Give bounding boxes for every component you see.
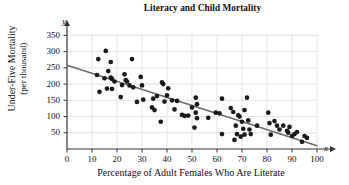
data-points — [95, 49, 310, 145]
data-point — [120, 83, 125, 88]
data-point — [228, 106, 233, 111]
chart-figure: Literacy and Child Mortality Under-Five … — [0, 0, 349, 185]
data-point — [240, 119, 245, 124]
x-tick-label: 50 — [181, 155, 203, 164]
data-point — [300, 140, 305, 145]
data-point — [108, 60, 113, 65]
data-point — [95, 73, 100, 78]
data-point — [172, 107, 177, 112]
y-tick-label: 200 — [34, 80, 60, 89]
data-point — [138, 75, 143, 80]
data-point — [122, 72, 127, 77]
y-axis-symbol: y — [62, 16, 66, 26]
x-tick-label: 20 — [106, 155, 128, 164]
data-point — [125, 79, 130, 84]
data-point — [267, 121, 272, 126]
data-point — [220, 96, 225, 101]
data-point — [97, 90, 102, 95]
data-point — [247, 127, 252, 132]
data-point — [141, 97, 146, 102]
y-tick-label: 100 — [34, 112, 60, 121]
y-tick-label: 350 — [34, 31, 60, 40]
data-point — [110, 87, 115, 92]
y-tick-label: 300 — [34, 47, 60, 56]
y-tick-label: 250 — [34, 63, 60, 72]
data-point — [220, 132, 225, 137]
x-tick-label: 30 — [131, 155, 153, 164]
x-axis-symbol: x — [324, 143, 328, 153]
data-point — [193, 110, 198, 115]
data-point — [287, 125, 292, 130]
data-point — [241, 127, 246, 132]
data-point — [195, 116, 200, 121]
data-point — [232, 138, 237, 143]
x-tick-label: 10 — [81, 155, 103, 164]
x-tick-label: 90 — [281, 155, 303, 164]
data-point — [161, 82, 166, 87]
data-point — [112, 79, 117, 84]
data-point — [242, 108, 247, 113]
x-tick-label: 70 — [231, 155, 253, 164]
data-point — [155, 94, 160, 99]
axis-ticks — [64, 35, 318, 152]
data-point — [246, 118, 251, 123]
data-point — [248, 132, 253, 137]
data-point — [233, 123, 238, 128]
data-point — [195, 102, 200, 107]
data-point — [295, 130, 300, 135]
data-point — [131, 85, 136, 90]
data-point — [237, 114, 242, 119]
y-tick-label: 50 — [34, 128, 60, 137]
x-tick-label: 80 — [256, 155, 278, 164]
data-point — [192, 125, 197, 130]
data-point — [175, 99, 180, 104]
data-point — [193, 95, 198, 100]
data-point — [217, 111, 222, 116]
data-point — [268, 132, 273, 137]
data-point — [105, 86, 110, 91]
data-point — [158, 119, 163, 124]
data-point — [103, 49, 108, 54]
data-point — [102, 76, 107, 81]
y-tick-label: 150 — [34, 96, 60, 105]
data-point — [162, 99, 167, 104]
data-point — [281, 123, 286, 128]
data-point — [186, 113, 191, 118]
data-point — [165, 93, 170, 98]
data-point — [118, 95, 123, 100]
data-point — [170, 98, 175, 103]
data-point — [266, 110, 271, 115]
data-point — [130, 57, 135, 62]
data-point — [245, 95, 250, 100]
x-tick-label: 0 — [56, 155, 78, 164]
data-point — [206, 115, 211, 120]
data-point — [135, 100, 140, 105]
data-point — [166, 86, 171, 91]
x-tick-label: 100 — [306, 155, 328, 164]
data-point — [272, 119, 277, 124]
data-point — [140, 83, 145, 88]
x-tick-label: 40 — [156, 155, 178, 164]
data-point — [275, 123, 280, 128]
data-point — [106, 69, 111, 74]
data-point — [242, 132, 247, 137]
data-point — [96, 57, 101, 62]
x-tick-label: 60 — [206, 155, 228, 164]
data-point — [277, 127, 282, 132]
data-point — [286, 130, 291, 135]
x-axis-arrow — [330, 146, 336, 152]
data-point — [152, 108, 157, 113]
data-point — [305, 136, 310, 141]
data-point — [190, 105, 195, 110]
data-point — [255, 123, 260, 128]
data-point — [231, 110, 236, 115]
